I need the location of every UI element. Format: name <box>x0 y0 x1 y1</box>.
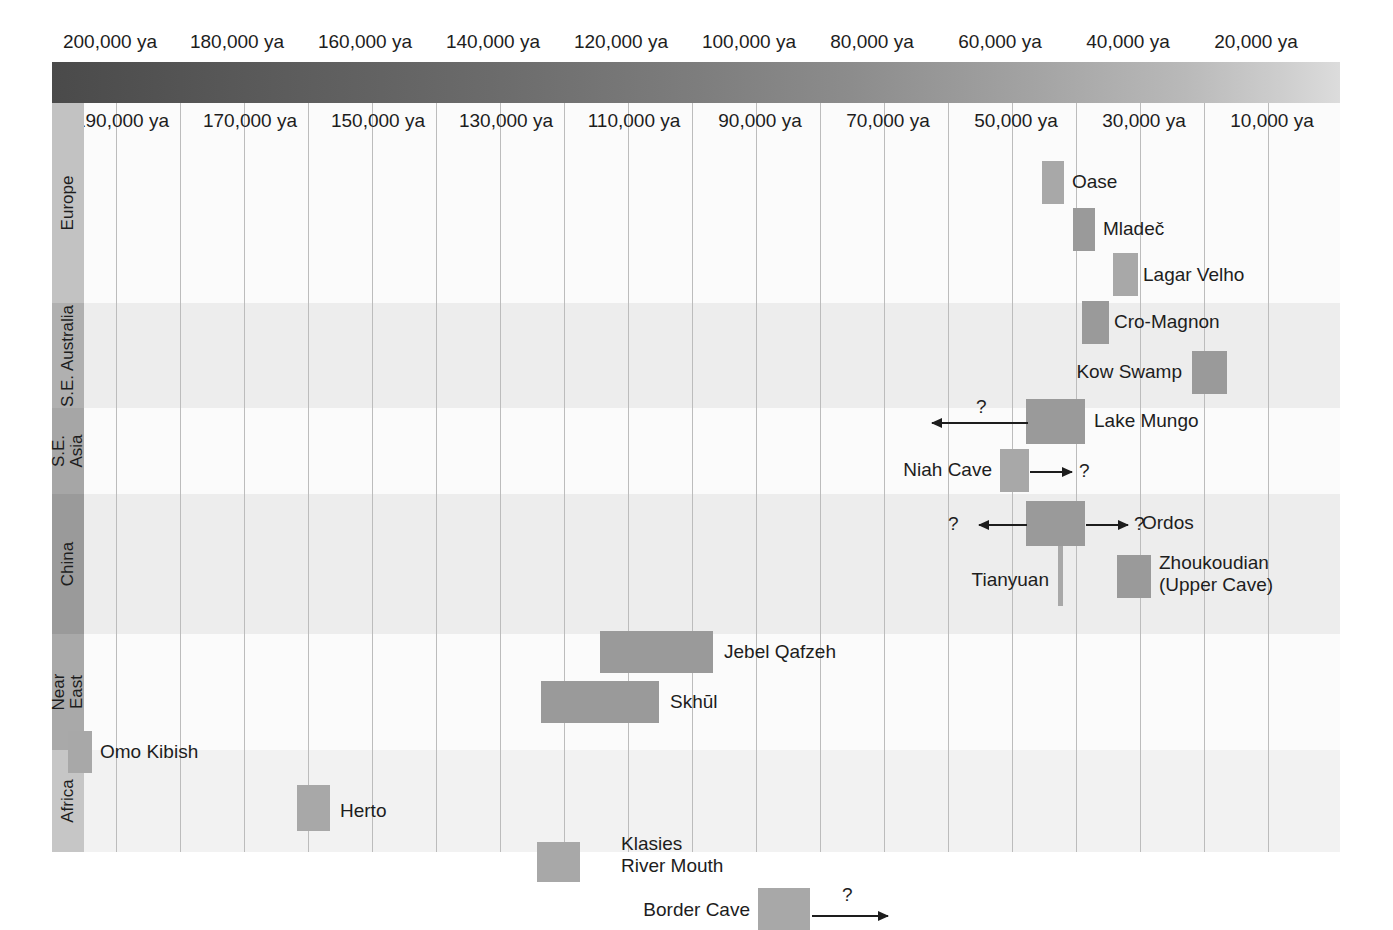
bar-cro-magnon <box>1082 301 1109 344</box>
bar-lagar-velho <box>1113 253 1138 296</box>
bar-niah-cave <box>1000 449 1029 492</box>
site-label-oase: Oase <box>1072 171 1117 193</box>
site-label-lake-mungo: Lake Mungo <box>1094 410 1199 432</box>
ordos-arrow-left-question-mark: ? <box>948 514 959 534</box>
site-label-omo-kibish: Omo Kibish <box>100 741 198 763</box>
site-label-ordos: Ordos <box>1142 512 1194 534</box>
bar-kow-swamp <box>1192 351 1227 394</box>
lake-mungo-arrow-question-mark: ? <box>976 397 987 417</box>
bar-ordos <box>1026 501 1085 546</box>
site-label-klasies: Klasies <box>621 833 682 855</box>
top-axis-tick-5: 100,000 ya <box>702 28 796 56</box>
top-axis-tick-1: 180,000 ya <box>190 28 284 56</box>
top-axis: 200,000 ya180,000 ya160,000 ya140,000 ya… <box>0 28 1393 56</box>
bar-mlade <box>1073 208 1095 251</box>
niah-cave-arrow <box>1030 471 1072 473</box>
top-axis-tick-0: 200,000 ya <box>63 28 157 56</box>
top-axis-tick-3: 140,000 ya <box>446 28 540 56</box>
bar-skh-l <box>541 681 659 723</box>
site-label-border-cave: Border Cave <box>643 899 750 921</box>
site-label-tianyuan: Tianyuan <box>972 569 1049 591</box>
top-axis-tick-6: 80,000 ya <box>830 28 913 56</box>
niah-cave-arrow-question-mark: ? <box>1079 461 1090 481</box>
site-label-mlade: Mladeč <box>1103 218 1164 240</box>
plot-area: indicated as at Qafzeh and Skhūl. the si… <box>52 62 1340 852</box>
bar-jebel-qafzeh <box>600 631 713 673</box>
site-label-zhoukoudian-line2: (Upper Cave) <box>1159 574 1273 596</box>
lake-mungo-arrow <box>932 422 1028 424</box>
top-axis-tick-8: 40,000 ya <box>1086 28 1169 56</box>
site-label-kow-swamp: Kow Swamp <box>1076 361 1182 383</box>
site-bars: OaseMladečLagar VelhoCro-MagnonKow Swamp… <box>52 103 1340 852</box>
site-label-klasies-line2: River Mouth <box>621 855 723 877</box>
site-label-herto: Herto <box>340 800 386 822</box>
ordos-arrow-right <box>1086 524 1128 526</box>
top-axis-tick-2: 160,000 ya <box>318 28 412 56</box>
ordos-arrow-left <box>979 524 1027 526</box>
border-cave-arrow-question-mark: ? <box>842 885 853 905</box>
site-label-lagar-velho: Lagar Velho <box>1143 264 1244 286</box>
top-axis-tick-7: 60,000 ya <box>958 28 1041 56</box>
ordos-arrow-right-question-mark: ? <box>1134 514 1145 534</box>
bar-lake-mungo <box>1026 399 1085 444</box>
border-cave-arrow <box>812 915 888 917</box>
bar-tianyuan <box>1058 546 1063 606</box>
bar-oase <box>1042 161 1064 204</box>
bar-klasies <box>537 842 580 882</box>
bar-zhoukoudian <box>1117 555 1151 598</box>
site-label-zhoukoudian: Zhoukoudian <box>1159 552 1269 574</box>
site-label-cro-magnon: Cro-Magnon <box>1114 311 1220 333</box>
site-label-skh-l: Skhūl <box>670 691 718 713</box>
site-label-niah-cave: Niah Cave <box>903 459 992 481</box>
top-axis-tick-4: 120,000 ya <box>574 28 668 56</box>
bar-border-cave <box>758 888 810 930</box>
site-label-jebel-qafzeh: Jebel Qafzeh <box>724 641 836 663</box>
bar-omo-kibish <box>68 731 92 773</box>
bar-herto <box>297 785 330 831</box>
top-axis-tick-9: 20,000 ya <box>1214 28 1297 56</box>
era-gradient-band <box>52 62 1340 103</box>
